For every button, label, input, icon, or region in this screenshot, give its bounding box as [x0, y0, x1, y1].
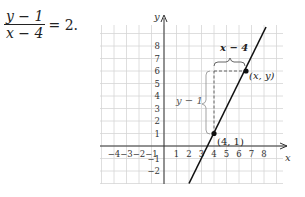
- y-tick-label: 7: [155, 54, 160, 64]
- y-tick-label: −1: [147, 154, 160, 164]
- y-tick-label: 1: [155, 129, 160, 139]
- x-tick-label: 7: [249, 149, 254, 159]
- point-4-1: [211, 131, 216, 136]
- x-tick-label: 1: [174, 149, 179, 159]
- x-tick-label: −4: [108, 149, 121, 159]
- x-axis-label: x: [285, 152, 291, 163]
- x-tick-label: −2: [133, 149, 146, 159]
- y-tick-label: 5: [155, 79, 160, 89]
- y-tick-label: 8: [155, 41, 160, 51]
- x-tick-label: 8: [261, 149, 266, 159]
- point-b-label: (x, y): [249, 70, 275, 81]
- x-tick-label: 2: [186, 149, 191, 159]
- vertical-brace: [202, 71, 210, 134]
- y-tick-label: −2: [147, 166, 160, 176]
- y-tick-label: 6: [155, 66, 160, 76]
- x-tick-label: 6: [236, 149, 241, 159]
- horizontal-brace-label: x − 4: [219, 42, 248, 53]
- coordinate-graph: x y −4−3−2−112345678 87654321−1−2 x − 4 …: [0, 0, 305, 197]
- y-tick-label: 4: [155, 91, 160, 101]
- vertical-brace-label: y − 1: [175, 95, 203, 106]
- x-tick-labels: −4−3−2−112345678: [108, 149, 267, 159]
- point-x-y: [243, 68, 248, 73]
- x-tick-label: 5: [224, 149, 229, 159]
- y-axis-label: y: [153, 11, 160, 22]
- y-tick-label: 3: [155, 104, 160, 114]
- point-a-label: (4, 1): [217, 136, 244, 147]
- x-tick-label: 4: [211, 149, 216, 159]
- y-tick-label: 2: [155, 116, 160, 126]
- x-tick-label: −3: [120, 149, 133, 159]
- horizontal-brace: [214, 58, 245, 66]
